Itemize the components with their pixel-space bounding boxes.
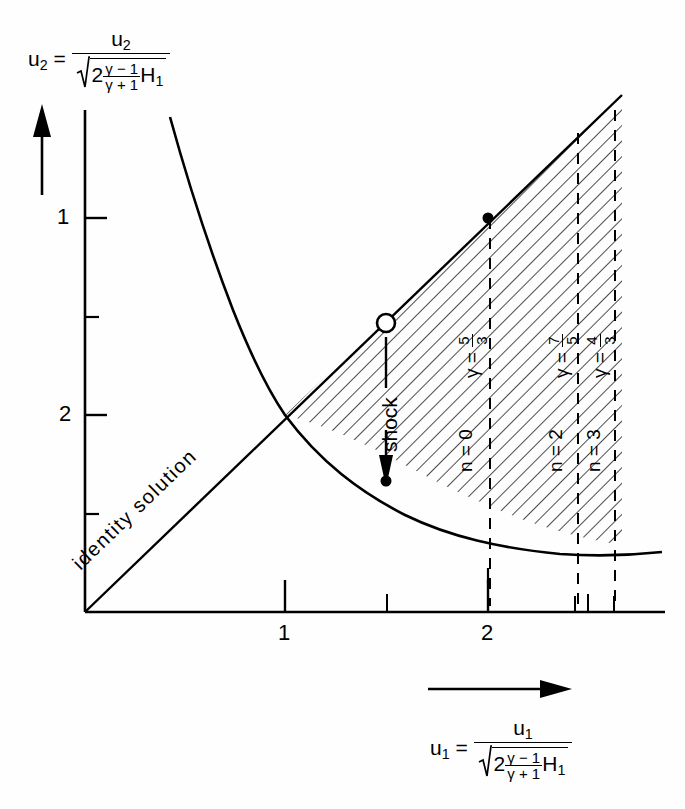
y-formula-numerator: u2 <box>72 28 171 54</box>
y-formula-trailing: H1 <box>140 63 163 86</box>
pre-shock-state-marker <box>377 314 395 332</box>
y-tick-label-2: 1 <box>57 204 69 230</box>
x-axis-direction-arrow <box>428 680 572 698</box>
shock-label: shock <box>378 397 402 452</box>
x-axis-formula-label: u1 = u1 2γ − 1γ + 1H1 <box>430 717 572 781</box>
y-axis-direction-arrow <box>33 104 51 195</box>
gamma-symbol: γ <box>589 369 610 379</box>
figure-canvas: u2 = u2 2γ − 1γ + 1H1 u1 = u1 <box>0 0 685 809</box>
x-formula-fraction: u1 2γ − 1γ + 1H1 <box>474 717 573 781</box>
y-tick-label-1: 2 <box>59 401 71 427</box>
x-formula-equals: = <box>455 736 467 759</box>
radical-icon <box>76 55 90 89</box>
y-formula-lhs: u2 <box>28 47 48 70</box>
y-axis-formula-label: u2 = u2 2γ − 1γ + 1H1 <box>28 28 170 92</box>
x-formula-radical: 2γ − 1γ + 1H1 <box>478 744 569 781</box>
gamma-symbol: γ <box>551 369 572 379</box>
gamma-4-3-fraction: 4 3 <box>583 334 618 346</box>
n-2-label: n = 2 <box>545 429 567 472</box>
y-formula-coefficient: 2 <box>92 63 104 86</box>
y-formula-gamma-fraction: γ − 1γ + 1 <box>103 61 140 92</box>
gamma-7-5-label: γ = 7 5 <box>545 334 580 378</box>
admissible-shock-region <box>285 95 622 545</box>
gamma-5-3-fraction: 5 3 <box>455 334 490 346</box>
n-0-label: n = 0 <box>455 429 477 472</box>
x-formula-coefficient: 2 <box>494 752 506 775</box>
gamma-4-3-label: γ = 4 3 <box>583 334 618 378</box>
y-formula-denominator: 2γ − 1γ + 1H1 <box>72 54 171 92</box>
y-formula-equals: = <box>53 47 65 70</box>
y-formula-radical: 2γ − 1γ + 1H1 <box>76 55 167 92</box>
x-tick-label-2: 2 <box>481 620 493 646</box>
radical-icon <box>478 744 492 778</box>
upper-branch-point-marker <box>483 213 494 224</box>
x-formula-radicand: 2γ − 1γ + 1H1 <box>492 747 569 781</box>
equals-symbol: = <box>461 352 482 363</box>
y-formula-fraction: u2 2γ − 1γ + 1H1 <box>72 28 171 92</box>
n-3-label: n = 3 <box>583 429 605 472</box>
x-formula-lhs: u1 <box>430 736 450 759</box>
equals-symbol: = <box>589 352 610 363</box>
post-shock-state-marker <box>381 476 392 487</box>
chart-svg <box>0 0 685 809</box>
y-formula-radicand: 2γ − 1γ + 1H1 <box>90 58 167 92</box>
x-tick-label-1: 1 <box>278 620 290 646</box>
x-formula-trailing: H1 <box>542 752 565 775</box>
gamma-7-5-fraction: 7 5 <box>545 334 580 346</box>
gamma-5-3-label: γ = 5 3 <box>455 334 490 378</box>
x-formula-numerator: u1 <box>474 717 573 743</box>
equals-symbol: = <box>551 352 572 363</box>
x-formula-gamma-fraction: γ − 1γ + 1 <box>505 750 542 781</box>
x-axis-ticks <box>285 568 614 612</box>
y-axis-ticks <box>85 218 107 514</box>
gamma-symbol: γ <box>461 369 482 379</box>
x-formula-denominator: 2γ − 1γ + 1H1 <box>474 743 573 781</box>
